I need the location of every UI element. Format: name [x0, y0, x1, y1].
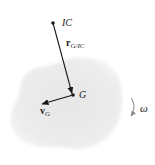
g-label: G — [79, 90, 86, 100]
r-g-ic-label: rG/IC — [66, 38, 84, 50]
ic-label: IC — [62, 18, 72, 28]
v-g-label: vG — [40, 106, 50, 118]
omega-rotation-arrow-icon — [131, 98, 134, 116]
rigid-body-diagram — [0, 0, 155, 165]
ic-point — [51, 21, 55, 25]
g-point — [71, 93, 75, 97]
r-sub-label: G/IC — [70, 42, 84, 50]
omega-label: ω — [140, 103, 148, 114]
rigid-body-shape — [11, 57, 123, 149]
v-sub-label: G — [45, 110, 50, 118]
